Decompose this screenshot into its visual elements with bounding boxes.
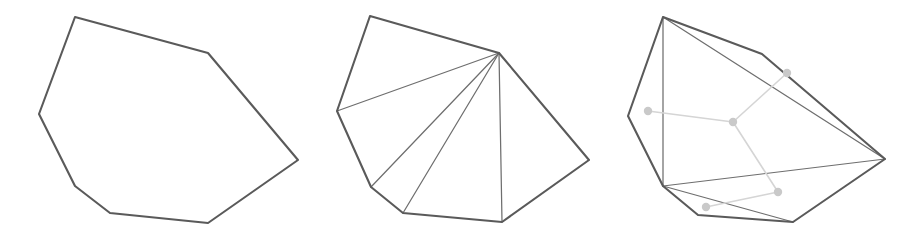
panel-triangulation-with-dual [628,17,885,222]
dual-node-center [729,118,737,126]
panel-fan-triangulation-outline [337,16,589,222]
panel-triangulation-with-dual-outline [628,17,885,222]
diagonal-apex-to-v3 [499,53,502,222]
dual-node-upper-right [783,69,791,77]
dual-edge-lower-right-bottom-left [706,192,778,207]
diagonal-v0-v2 [663,17,885,159]
figure-canvas [0,0,916,234]
dual-node-lower-right [774,188,782,196]
dual-edge-left-center [648,111,733,122]
dual-node-left [644,107,652,115]
panel-simple-polygon [39,17,298,223]
dual-node-bottom-left [702,203,710,211]
dual-edge-center-upper-right [733,73,787,122]
diagonal-apex-to-v4 [403,53,499,213]
diagonal-apex-to-v5 [371,53,499,187]
panel-simple-polygon-outline [39,17,298,223]
diagonal-apex-to-v6 [337,53,499,111]
dual-edge-center-lower-right [733,122,778,192]
panel-fan-triangulation [337,16,589,222]
geometry-illustration [0,0,916,234]
